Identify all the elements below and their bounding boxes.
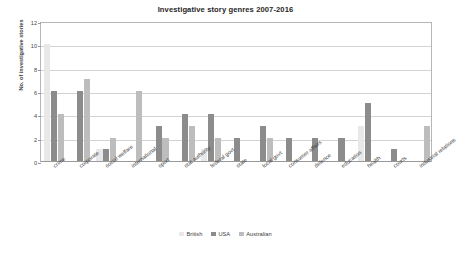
bar-usa-health	[365, 103, 371, 161]
bar-group	[407, 23, 433, 161]
y-tick-label: 2	[11, 137, 37, 143]
legend-label: Australian	[246, 231, 271, 237]
legend-item-british[interactable]: British	[179, 231, 202, 237]
bar-group	[198, 23, 224, 161]
bar-group	[93, 23, 119, 161]
bar-group	[381, 23, 407, 161]
legend-swatch-icon	[239, 232, 244, 237]
bar-british-crime	[44, 44, 50, 161]
x-axis-labels: crimecorporatesocial welfareinternationa…	[40, 164, 432, 226]
legend-label: USA	[218, 231, 230, 237]
legend-item-usa[interactable]: USA	[211, 231, 230, 237]
bar-usa-education	[338, 138, 344, 161]
bar-group	[146, 23, 172, 161]
bar-group	[328, 23, 354, 161]
chart-title: Investigative story genres 2007-2016	[0, 5, 451, 14]
bar-usa-consumer-affairs	[286, 138, 292, 161]
bar-group	[67, 23, 93, 161]
bar-australian-corporate	[84, 79, 90, 161]
y-tick-label: 12	[11, 20, 37, 26]
bar-usa-sport	[156, 126, 162, 161]
bar-usa-local-govt	[260, 126, 266, 161]
legend-swatch-icon	[211, 232, 216, 237]
bar-group	[224, 23, 250, 161]
bar-group	[355, 23, 381, 161]
bar-series-container	[41, 23, 431, 161]
legend-swatch-icon	[179, 232, 184, 237]
bar-group	[172, 23, 198, 161]
plot-area: 024681012	[40, 22, 432, 162]
bar-usa-corporate	[77, 91, 83, 161]
y-tick-label: 6	[11, 90, 37, 96]
bar-usa-stat-authority	[182, 114, 188, 161]
y-tick-label: 8	[11, 67, 37, 73]
y-tick-label: 4	[11, 113, 37, 119]
bar-australian-crime	[58, 114, 64, 161]
bar-group	[276, 23, 302, 161]
legend-label: British	[187, 231, 203, 237]
bar-usa-crime	[51, 91, 57, 161]
legend-item-australian[interactable]: Australian	[239, 231, 271, 237]
chart-legend: BritishUSAAustralian	[0, 231, 451, 237]
bar-group	[250, 23, 276, 161]
bar-australian-international	[136, 91, 142, 161]
bar-group	[41, 23, 67, 161]
y-tick-label: 10	[11, 43, 37, 49]
bar-usa-federal-govt	[208, 114, 214, 161]
y-tick-label: 0	[11, 160, 37, 166]
bar-group	[119, 23, 145, 161]
